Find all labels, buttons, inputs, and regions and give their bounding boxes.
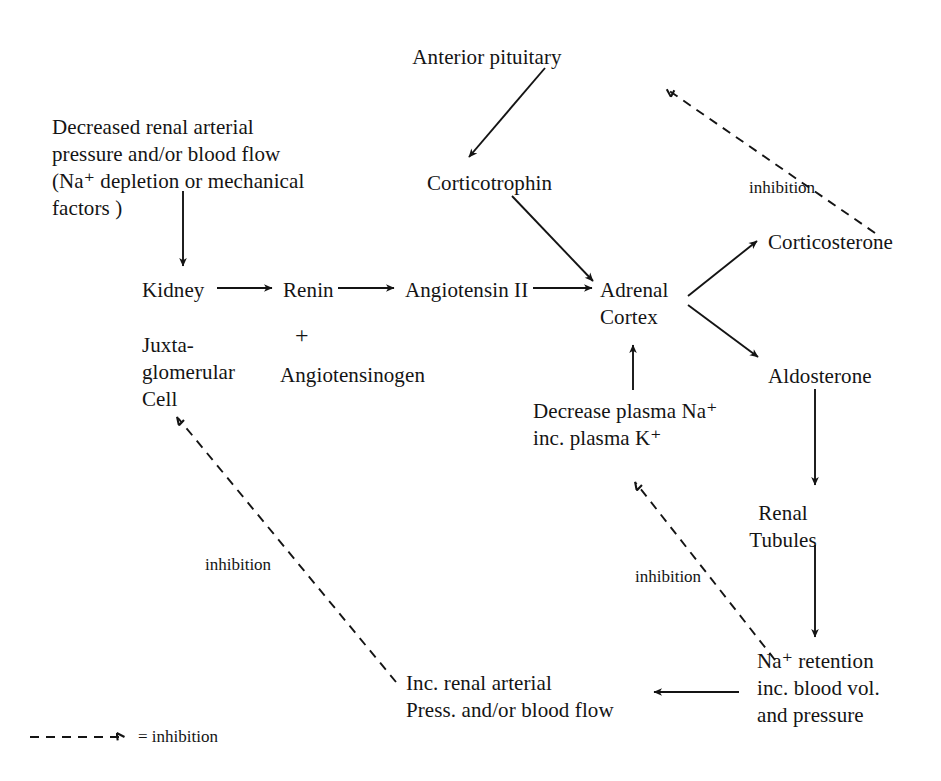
edge-adrenal-cortex-to-aldosterone [688,305,758,357]
node-corticosterone: Corticosterone [768,229,893,256]
node-renal-tubules: Renal Tubules [749,500,817,554]
edge-inhibition-inc-renal-to-juxtaglomerular [178,418,396,682]
node-aldosterone: Aldosterone [768,363,872,390]
edge-label-inhibition-top-right: inhibition [749,178,815,198]
edge-label-inhibition-left: inhibition [205,555,271,575]
node-angiotensinogen: Angiotensinogen [280,362,425,389]
node-decrease-plasma-na: Decrease plasma Na⁺ inc. plasma K⁺ [533,398,717,452]
node-anterior-pituitary: Anterior pituitary [412,44,561,71]
node-kidney: Kidney [142,277,204,304]
edge-anterior-pituitary-to-corticotrophin [469,68,545,157]
legend-text: = inhibition [138,727,218,747]
edge-inhibition-corticosterone-to-pituitary [668,90,875,233]
node-juxtaglomerular-cell: Juxta- glomerular Cell [142,332,235,413]
node-decreased-renal-pressure: Decreased renal arterial pressure and/or… [52,114,304,222]
edge-adrenal-cortex-to-corticosterone [688,241,757,296]
node-adrenal-cortex: Adrenal Cortex [600,277,668,331]
node-na-retention: Na⁺ retention inc. blood vol. and pressu… [757,648,880,729]
node-renin: Renin [283,277,334,304]
node-angiotensin-ii: Angiotensin II [405,277,528,304]
diagram-canvas: Anterior pituitary Corticotrophin Decrea… [0,0,941,781]
edge-corticotrophin-to-adrenal-cortex [512,196,593,281]
node-inc-renal-arterial: Inc. renal arterial Press. and/or blood … [406,670,614,724]
node-corticotrophin: Corticotrophin [427,170,552,197]
plus-sign: + [295,322,309,349]
edge-label-inhibition-middle: inhibition [635,567,701,587]
